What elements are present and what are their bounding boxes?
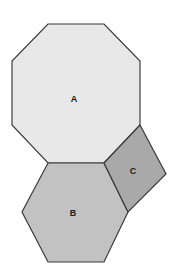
hexagon-b-label: B (70, 208, 77, 218)
figure-canvas: A B C (0, 0, 180, 277)
square-c-label: C (130, 166, 137, 176)
shape-group-octagon-a: A (12, 24, 140, 163)
octagon-a-label: A (71, 94, 78, 104)
polygon-figure: A B C (0, 0, 180, 277)
